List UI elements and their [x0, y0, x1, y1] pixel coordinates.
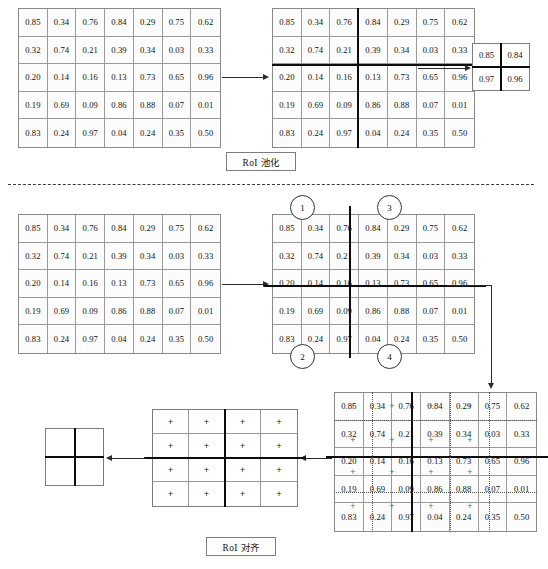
sample-point-marker: +: [350, 436, 355, 445]
caption-roi-align: RoI 对齐: [206, 537, 276, 556]
feature-map-cell: 0.96: [191, 270, 220, 298]
pooled-output-cell: 0.96: [501, 67, 529, 90]
feature-map-cell: 0.01: [191, 92, 220, 120]
sample-point-marker: +: [350, 502, 355, 511]
feature-map-cell: 0.84: [359, 215, 388, 243]
circle-number-4: 4: [377, 344, 402, 369]
sampling-bin-cell: +: [225, 434, 261, 458]
feature-map-cell: 0.01: [445, 298, 474, 326]
sample-point-marker: +: [467, 436, 472, 445]
sampling-bin-cell: +: [153, 482, 189, 506]
feature-map-cell: 0.35: [417, 325, 446, 353]
feature-map-cell: 0.50: [191, 325, 220, 353]
feature-map-cell: 0.86: [105, 92, 134, 120]
feature-map-cell: 0.14: [48, 64, 77, 92]
feature-map-cell: 0.84: [421, 393, 450, 421]
sampling-bin-cell: +: [225, 458, 261, 482]
feature-map-cell: 0.03: [417, 37, 446, 65]
feature-map-grid-source: 0.850.340.760.840.290.750.620.320.740.21…: [18, 8, 221, 148]
feature-map-cell: 0.33: [445, 243, 474, 271]
feature-map-cell: 0.35: [163, 325, 192, 353]
feature-map-cell: 0.32: [19, 243, 48, 271]
feature-map-cell: 0.96: [445, 270, 474, 298]
arrow-elbow-vertical-segment: [491, 285, 492, 385]
sample-point-marker: +: [428, 468, 433, 477]
section-divider: [8, 184, 534, 185]
feature-map-cell: 0.07: [479, 476, 508, 504]
feature-map-cell: 0.19: [273, 92, 302, 120]
feature-map-cell: 0.32: [273, 37, 302, 65]
feature-map-cell: 0.19: [273, 298, 302, 326]
align-output-divider-horizontal: [45, 456, 104, 458]
caption-roi-pooling: RoI 池化: [226, 152, 296, 171]
feature-map-cell: 0.21: [76, 243, 105, 271]
feature-map-cell: 0.13: [105, 64, 134, 92]
feature-map-cell: 0.14: [48, 270, 77, 298]
circle-number-1-text: 1: [300, 203, 305, 213]
feature-map-cell: 0.24: [450, 503, 479, 531]
sampling-bin-cell: +: [189, 482, 225, 506]
feature-map-cell: 0.20: [273, 270, 302, 298]
feature-map-cell: 0.96: [507, 448, 536, 476]
feature-map-cell: 0.13: [359, 270, 388, 298]
feature-map-grid-align-roi: 0.850.340.760.840.290.750.620.320.740.21…: [272, 214, 475, 354]
feature-map-cell: 0.34: [302, 9, 331, 37]
feature-map-cell: 0.76: [76, 215, 105, 243]
feature-map-cell: 0.29: [134, 215, 163, 243]
sampling-dotted-line-v3: [489, 392, 490, 532]
feature-map-cell: 0.85: [19, 9, 48, 37]
sampling-dotted-line-v1: [372, 392, 373, 532]
feature-map-cell: 0.24: [48, 325, 77, 353]
feature-map-cell: 0.34: [134, 243, 163, 271]
sampling-bin-cell: +: [261, 458, 297, 482]
sample-point-marker: +: [467, 502, 472, 511]
feature-map-cell: 0.88: [388, 298, 417, 326]
feature-map-cell: 0.86: [105, 298, 134, 326]
feature-map-cell: 0.65: [479, 448, 508, 476]
sampling-bin-cell: +: [261, 410, 297, 434]
feature-map-cell: 0.73: [450, 448, 479, 476]
caption-roi-pooling-text: RoI 池化: [243, 155, 280, 169]
feature-map-cell: 0.24: [134, 119, 163, 147]
feature-map-cell: 0.34: [388, 243, 417, 271]
pooled-divider-horizontal: [472, 66, 530, 68]
feature-map-cell: 0.39: [421, 421, 450, 449]
feature-map-cell: 0.76: [330, 9, 359, 37]
feature-map-cell: 0.75: [417, 215, 446, 243]
feature-map-cell: 0.34: [388, 37, 417, 65]
sampling-bin-cell: +: [189, 434, 225, 458]
feature-map-cell: 0.39: [105, 243, 134, 271]
sampling-bin-cell: +: [153, 410, 189, 434]
arrow-bins-to-output-line: [112, 458, 146, 459]
feature-map-cell: 0.21: [76, 37, 105, 65]
feature-map-cell: 0.34: [48, 9, 77, 37]
feature-map-cell: 0.83: [19, 325, 48, 353]
feature-map-cell: 0.16: [76, 270, 105, 298]
sampling-roi-divider-vertical: [411, 392, 413, 532]
feature-map-cell: 0.09: [392, 476, 421, 504]
feature-map-cell: 0.97: [330, 325, 359, 353]
caption-roi-align-text: RoI 对齐: [223, 540, 260, 554]
feature-map-cell: 0.14: [302, 270, 331, 298]
sample-point-marker: +: [389, 402, 394, 411]
feature-map-grid-align-source: 0.850.340.760.840.290.750.620.320.740.21…: [18, 214, 221, 354]
feature-map-grid-sampling: 0.850.340.760.840.290.750.620.320.740.21…: [334, 392, 537, 532]
feature-map-cell: 0.16: [76, 64, 105, 92]
feature-map-cell: 0.24: [48, 119, 77, 147]
arrow-roi-to-pooled-line: [418, 68, 466, 69]
arrow-elbow-head: [488, 383, 494, 389]
feature-map-cell: 0.35: [163, 119, 192, 147]
feature-map-cell: 0.07: [163, 92, 192, 120]
feature-map-cell: 0.32: [19, 37, 48, 65]
sample-point-marker: +: [428, 402, 433, 411]
sampling-roi-divider-horizontal: [326, 456, 548, 458]
feature-map-cell: 0.29: [450, 393, 479, 421]
feature-map-cell: 0.01: [445, 92, 474, 120]
feature-map-cell: 0.74: [48, 37, 77, 65]
feature-map-cell: 0.69: [302, 298, 331, 326]
feature-map-cell: 0.69: [48, 92, 77, 120]
feature-map-cell: 0.74: [364, 421, 393, 449]
feature-map-cell: 0.01: [507, 476, 536, 504]
feature-map-cell: 0.34: [450, 421, 479, 449]
feature-map-cell: 0.73: [134, 64, 163, 92]
